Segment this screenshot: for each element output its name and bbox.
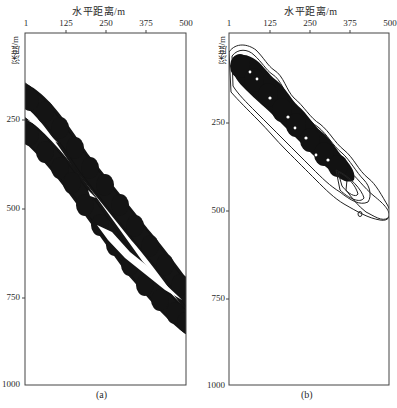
- panel-caption: (a): [96, 389, 107, 400]
- contour-core-b: [230, 54, 355, 182]
- plot-frame-a: [25, 33, 186, 385]
- panel-caption: (b): [301, 389, 313, 400]
- panel-b: 水平距离/m 深度/m 1 125 250 375 500 250 500 75…: [198, 0, 395, 408]
- panel-a: 水平距离/m 深度/m 1 125 250 375 500 250 500 75…: [0, 0, 197, 408]
- contour-plot-b: [198, 0, 395, 408]
- contour-plot-a: [0, 0, 197, 408]
